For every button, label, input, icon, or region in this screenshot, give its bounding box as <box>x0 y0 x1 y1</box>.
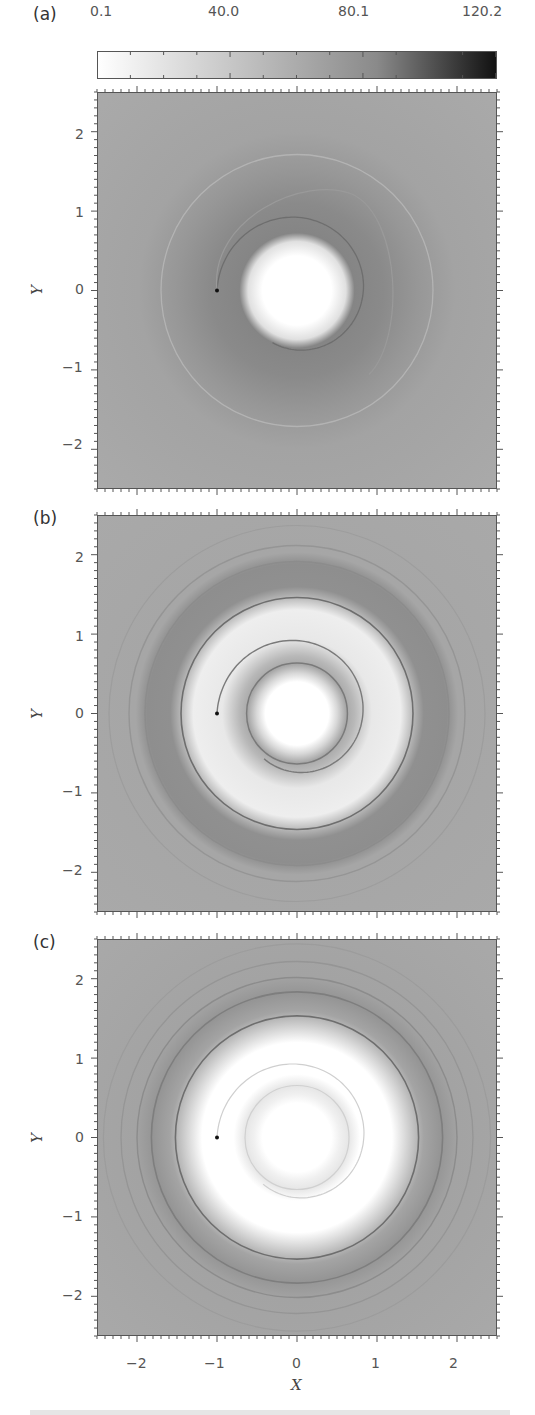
y-tick-label: −1 <box>62 783 83 799</box>
x-tick-label: 1 <box>371 1355 380 1371</box>
y-tick-label: −2 <box>62 1287 83 1303</box>
y-tick-label: 2 <box>75 972 84 988</box>
y-axis-title: Y <box>28 1133 46 1143</box>
y-tick-label: −1 <box>62 359 83 375</box>
y-tick-label: 1 <box>75 1051 84 1067</box>
y-tick-label: −2 <box>62 862 83 878</box>
y-tick-label: −2 <box>62 436 83 452</box>
y-tick-label: 2 <box>75 126 84 142</box>
colorbar-gradient <box>97 51 497 79</box>
colorbar-label-min: 0.1 <box>90 3 112 19</box>
y-tick-label: 0 <box>75 281 84 297</box>
panel-label-c: (c) <box>33 932 56 952</box>
y-tick-label: 2 <box>75 549 84 565</box>
x-tick-label: −2 <box>126 1355 147 1371</box>
x-tick-label: 0 <box>292 1355 301 1371</box>
y-axis-title: Y <box>28 709 46 719</box>
x-tick-label: −1 <box>204 1355 225 1371</box>
x-tick-label: 2 <box>449 1355 458 1371</box>
x-axis-title: X <box>291 1376 302 1394</box>
y-tick-label: 0 <box>75 1129 84 1145</box>
colorbar-label-80: 80.1 <box>338 3 369 19</box>
heatmap-panel-b <box>97 515 497 912</box>
y-tick-label: 1 <box>75 628 84 644</box>
y-tick-label: 1 <box>75 204 84 220</box>
caption-fragment <box>30 1402 510 1415</box>
colorbar-label-40: 40.0 <box>208 3 239 19</box>
panel-label-a: (a) <box>33 4 57 24</box>
y-tick-label: −1 <box>62 1208 83 1224</box>
y-tick-label: 0 <box>75 705 84 721</box>
heatmap-panel-a <box>97 92 497 489</box>
y-axis-title: Y <box>28 285 46 295</box>
heatmap-panel-c <box>97 939 497 1336</box>
panel-label-b: (b) <box>33 508 57 528</box>
colorbar-label-max: 120.2 <box>462 3 502 19</box>
